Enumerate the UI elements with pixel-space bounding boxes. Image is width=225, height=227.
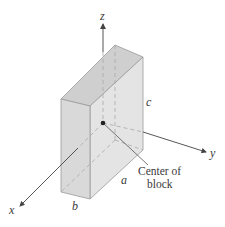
block-diagram: z y x c a b Center of block (0, 0, 225, 227)
a-dimension-label: a (121, 173, 127, 187)
c-dimension-label: c (146, 95, 152, 109)
x-axis-label: x (8, 203, 15, 217)
b-dimension-label: b (72, 199, 78, 213)
center-annotation-line2: block (147, 178, 173, 190)
center-annotation-line1: Center of (138, 165, 181, 177)
y-axis-label: y (209, 146, 216, 160)
center-dot (101, 121, 106, 126)
z-axis-label: z (99, 9, 105, 23)
y-axis (143, 132, 206, 152)
block-front-face (61, 99, 90, 199)
